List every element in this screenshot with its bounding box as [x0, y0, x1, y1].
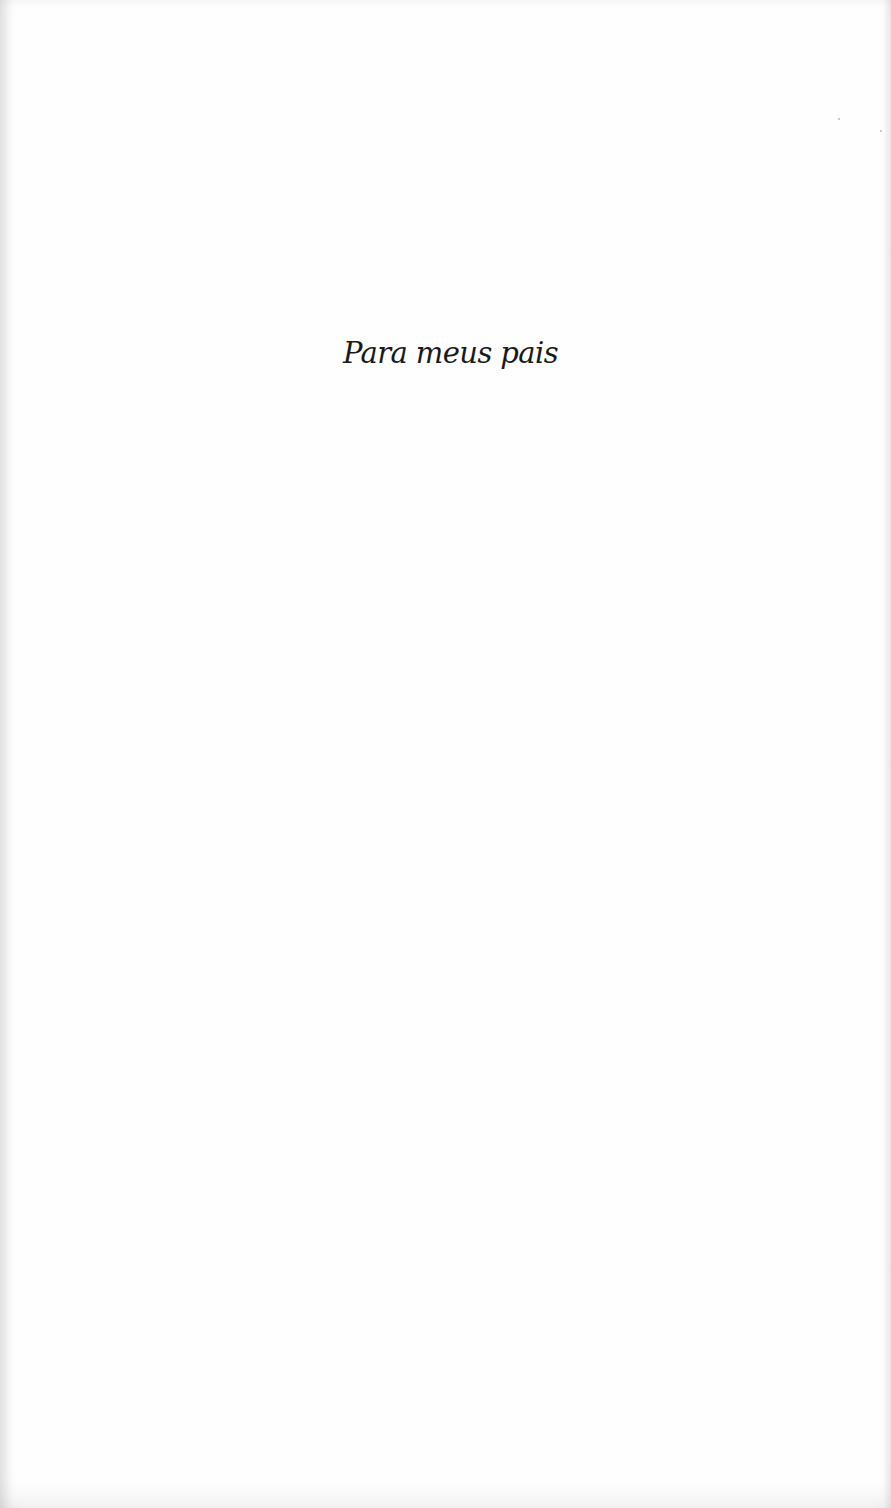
- scan-speck: [838, 118, 840, 120]
- dedication-text: Para meus pais: [343, 333, 558, 373]
- scan-left-edge-shadow: [0, 0, 12, 1508]
- scan-speck: [880, 130, 882, 132]
- book-page: Para meus pais: [0, 0, 891, 1508]
- scan-right-edge-shadow: [883, 0, 891, 1508]
